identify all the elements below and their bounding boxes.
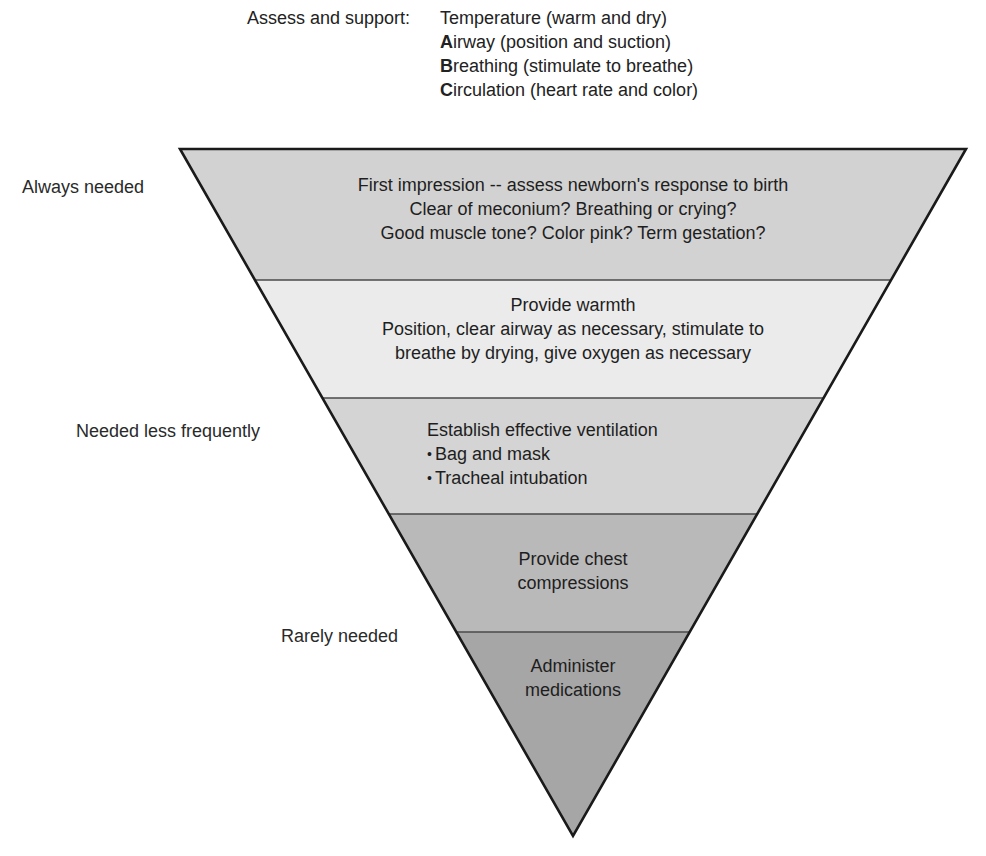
band-provide-warmth-text: Provide warmth Position, clear airway as… [255, 293, 891, 365]
neonatal-resuscitation-inverted-pyramid: Assess and support: Temperature (warm an… [0, 0, 986, 856]
circulation-initial: C [440, 80, 453, 100]
label-always-needed: Always needed [22, 177, 144, 198]
bullet-icon: • [427, 466, 435, 490]
label-rarely-needed: Rarely needed [281, 626, 398, 647]
band-first-impression-text: First impression -- assess newborn's res… [180, 173, 966, 245]
assess-support-label: Assess and support: [247, 6, 440, 30]
header-item-temperature: Temperature (warm and dry) [440, 6, 667, 30]
band-chest-compressions-text: Provide chest compressions [389, 547, 757, 595]
band-ventilation-text: Establish effective ventilation •Bag and… [427, 418, 658, 490]
header-item-circulation: Circulation (heart rate and color) [440, 78, 698, 102]
ventilation-title: Establish effective ventilation [427, 418, 658, 442]
header-item-breathing: Breathing (stimulate to breathe) [440, 54, 693, 78]
label-needed-less-frequently: Needed less frequently [76, 421, 260, 442]
breathing-initial: B [440, 56, 453, 76]
band-medications-text: Administer medications [456, 654, 690, 702]
ventilation-bullet-bag-mask: •Bag and mask [427, 442, 658, 466]
bullet-icon: • [427, 442, 435, 466]
header-item-airway: Airway (position and suction) [440, 30, 671, 54]
airway-initial: A [440, 32, 453, 52]
ventilation-bullet-intubation: •Tracheal intubation [427, 466, 658, 490]
assess-support-header: Assess and support: Temperature (warm an… [247, 6, 698, 102]
